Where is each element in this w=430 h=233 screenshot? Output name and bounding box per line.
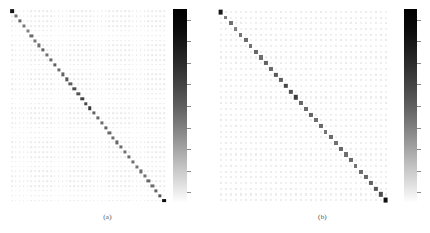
colorbar-tick: [187, 41, 191, 42]
colorbar-tick: [187, 20, 191, 21]
colorbar-tick: [187, 171, 191, 172]
colorbar-b: [404, 9, 417, 203]
colorbar-tick: [417, 149, 421, 150]
colorbar-ticks-a: [187, 9, 197, 203]
colorbar-tick: [417, 106, 421, 107]
colorbar-gradient-b: [404, 9, 417, 203]
matrix-grid-b: [218, 9, 388, 203]
colorbar-tick: [187, 84, 191, 85]
matrix-plot-a: [10, 9, 166, 203]
colorbar-tick: [187, 106, 191, 107]
colorbar-tick: [187, 192, 191, 193]
matrix-cell: [162, 198, 166, 203]
colorbar-tick: [417, 20, 421, 21]
panel-b: (b): [215, 0, 430, 233]
colorbar-tick: [417, 128, 421, 129]
colorbar-tick: [417, 41, 421, 42]
colorbar-tick: [417, 171, 421, 172]
panel-a: (a): [0, 0, 215, 233]
colorbar-tick: [417, 84, 421, 85]
colorbar-tick: [417, 63, 421, 64]
panel-caption-a: (a): [0, 213, 215, 221]
colorbar-gradient-a: [173, 9, 187, 203]
colorbar-tick: [187, 63, 191, 64]
colorbar-ticks-b: [417, 9, 427, 203]
colorbar-tick: [417, 192, 421, 193]
matrix-plot-b: [218, 9, 388, 203]
colorbar-tick: [187, 128, 191, 129]
colorbar-a: [173, 9, 187, 203]
matrix-grid-a: [10, 9, 166, 203]
matrix-cell: [383, 197, 388, 203]
colorbar-tick: [187, 149, 191, 150]
panel-caption-b: (b): [215, 213, 430, 221]
figure-container: (a) (b): [0, 0, 430, 233]
